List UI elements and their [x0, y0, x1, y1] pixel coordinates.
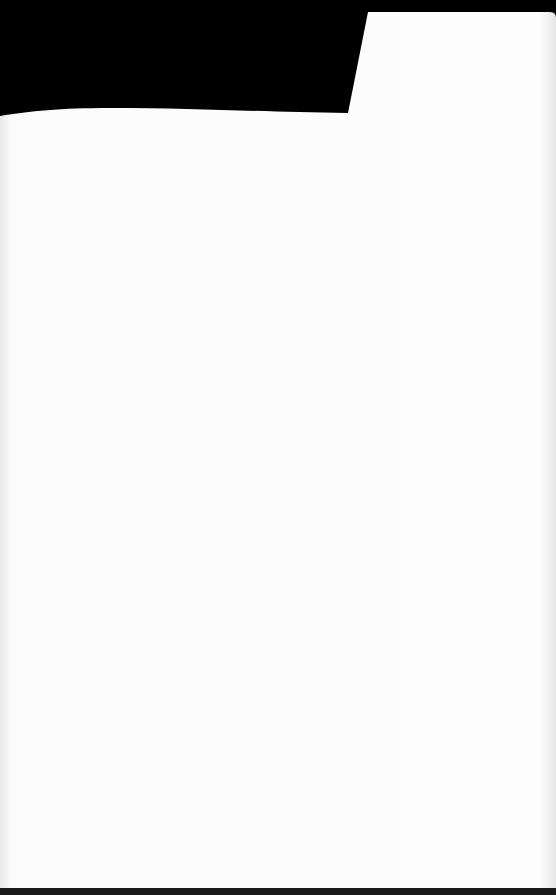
blank-paper-sheet	[0, 0, 556, 895]
paper-shape	[0, 0, 556, 895]
photo-scene	[0, 0, 556, 895]
